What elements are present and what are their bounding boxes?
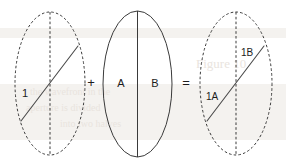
right-ellipse-label-1a: 1A <box>206 91 219 102</box>
equation-diagram: 1 + A B = 1A 1B <box>0 0 286 166</box>
middle-ellipse-label-b: B <box>151 77 158 89</box>
plus-operator: + <box>87 75 95 90</box>
middle-ellipse-label-a: A <box>117 77 125 89</box>
left-ellipse-label-1: 1 <box>22 87 28 99</box>
diagram-canvas: Figure 10 the wavefront in the aperture … <box>0 0 286 166</box>
equals-operator: = <box>182 75 190 90</box>
middle-ellipse-group: A B <box>103 11 172 157</box>
left-ellipse-group: 1 <box>15 12 85 155</box>
right-ellipse-group: 1A 1B <box>200 12 272 155</box>
right-ellipse-label-1b: 1B <box>241 47 254 58</box>
